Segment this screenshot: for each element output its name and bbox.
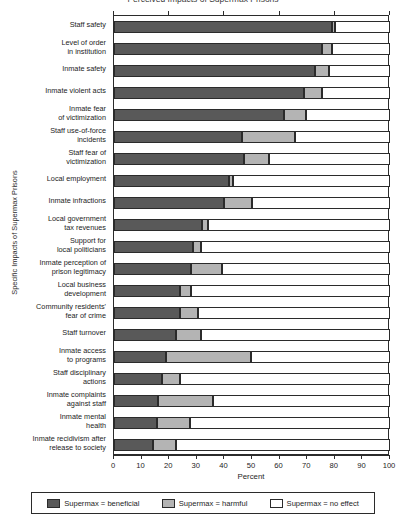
bar-row — [114, 21, 390, 33]
bar-segment-noeffect — [269, 153, 390, 165]
plot-top-tick — [279, 11, 280, 15]
bar-segment-harmful — [304, 87, 322, 99]
bar-segment-noeffect — [191, 285, 390, 297]
x-axis-tick — [279, 455, 280, 459]
bar-row — [114, 329, 390, 341]
bar-row — [114, 219, 390, 231]
x-axis-tick — [196, 455, 197, 459]
bar-segment-beneficial — [114, 43, 322, 55]
bar-row — [114, 395, 390, 407]
legend-item[interactable]: Supermax = harmful — [162, 499, 248, 508]
bar-segment-noeffect — [213, 395, 390, 407]
bar-segment-beneficial — [114, 21, 332, 33]
bar-segment-beneficial — [114, 307, 180, 319]
x-axis-tick — [306, 455, 307, 459]
x-axis-tick-label: 10 — [129, 461, 153, 470]
y-axis-label: Inmate mentalhealth — [7, 413, 106, 429]
bar-segment-harmful — [191, 263, 221, 275]
plot-area — [113, 15, 389, 455]
bar-row — [114, 351, 390, 363]
legend-label: Supermax = no effect — [287, 499, 359, 508]
bar-segment-noeffect — [176, 439, 390, 451]
bar-row — [114, 197, 390, 209]
y-axis-label: Inmate recidivism afterrelease to societ… — [7, 435, 106, 451]
legend-label: Supermax = beneficial — [64, 499, 139, 508]
bar-row — [114, 109, 390, 121]
plot-top-tick — [389, 11, 390, 15]
bar-segment-beneficial — [114, 373, 162, 385]
y-axis-label: Inmate accessto programs — [7, 347, 106, 363]
y-axis-category-labels: Staff safetyLevel of orderin institution… — [8, 15, 109, 455]
plot-top-tick — [334, 11, 335, 15]
bar-segment-beneficial — [114, 285, 180, 297]
x-axis-tick — [389, 455, 390, 459]
x-axis-tick-label: 20 — [156, 461, 180, 470]
bar-segment-noeffect — [201, 241, 390, 253]
y-axis-label: Local governmenttax revenues — [7, 215, 106, 231]
bar-segment-noeffect — [201, 329, 390, 341]
bar-segment-harmful — [224, 197, 252, 209]
bar-segment-harmful — [157, 417, 190, 429]
bar-segment-beneficial — [114, 197, 224, 209]
bar-segment-noeffect — [322, 87, 390, 99]
bar-row — [114, 373, 390, 385]
chart-title: Perceived Impacts of Supermax Prisons — [0, 0, 406, 4]
y-axis-label: Community residents'fear of crime — [7, 303, 106, 319]
bar-segment-harmful — [153, 439, 176, 451]
bar-segment-beneficial — [114, 395, 158, 407]
bar-segment-beneficial — [114, 241, 193, 253]
bar-row — [114, 285, 390, 297]
legend-swatch-no_effect — [270, 499, 283, 508]
y-axis-label: Staff turnover — [7, 329, 106, 337]
y-axis-label: Inmate complaintsagainst staff — [7, 391, 106, 407]
chart-container: Perceived Impacts of Supermax Prisons Sp… — [0, 0, 406, 521]
bar-segment-noeffect — [222, 263, 390, 275]
bar-segment-harmful — [158, 395, 213, 407]
x-axis-tick-label: 100 — [377, 461, 401, 470]
x-axis-tick — [361, 455, 362, 459]
bar-segment-beneficial — [114, 329, 176, 341]
bar-segment-harmful — [166, 351, 250, 363]
x-axis-title: Percent — [113, 472, 389, 481]
legend-item[interactable]: Supermax = no effect — [270, 499, 359, 508]
y-axis-label: Support forlocal politicians — [7, 237, 106, 253]
bar-segment-beneficial — [114, 351, 166, 363]
bar-segment-noeffect — [335, 21, 390, 33]
plot-top-tick — [113, 11, 114, 15]
bar-segment-noeffect — [190, 417, 390, 429]
x-axis-tick-label: 60 — [267, 461, 291, 470]
bar-segment-noeffect — [233, 175, 390, 187]
x-axis-tick-label: 0 — [101, 461, 125, 470]
y-axis-label: Inmate infractions — [7, 197, 106, 205]
chart-legend: Supermax = beneficialSupermax = harmfulS… — [31, 492, 375, 514]
bar-segment-noeffect — [329, 65, 390, 77]
bar-segment-beneficial — [114, 175, 229, 187]
bar-segment-beneficial — [114, 417, 157, 429]
bar-segment-harmful — [176, 329, 201, 341]
x-axis-tick — [141, 455, 142, 459]
bar-row — [114, 131, 390, 143]
bar-segment-noeffect — [252, 197, 390, 209]
y-axis-label: Staff use-of-forceincidents — [7, 127, 106, 143]
legend-item[interactable]: Supermax = beneficial — [47, 499, 139, 508]
y-axis-label: Staff fear ofvictimization — [7, 149, 106, 165]
bar-row — [114, 263, 390, 275]
x-axis-tick-label: 90 — [349, 461, 373, 470]
y-axis-label: Inmate perception ofprison legitimacy — [7, 259, 106, 275]
x-axis-tick-label: 50 — [239, 461, 263, 470]
bar-segment-beneficial — [114, 109, 284, 121]
bar-segment-beneficial — [114, 439, 153, 451]
bar-row — [114, 175, 390, 187]
bar-segment-harmful — [162, 373, 180, 385]
y-axis-label: Inmate violent acts — [7, 87, 106, 95]
bar-segment-harmful — [242, 131, 294, 143]
x-axis-tick-label: 30 — [184, 461, 208, 470]
bar-row — [114, 87, 390, 99]
y-axis-label: Inmate fearof victimization — [7, 105, 106, 121]
y-axis-label: Staff disciplinaryactions — [7, 369, 106, 385]
y-axis-label: Inmate safety — [7, 65, 106, 73]
bar-segment-beneficial — [114, 219, 202, 231]
bar-row — [114, 417, 390, 429]
x-axis-tick — [223, 455, 224, 459]
bar-segment-beneficial — [114, 263, 191, 275]
